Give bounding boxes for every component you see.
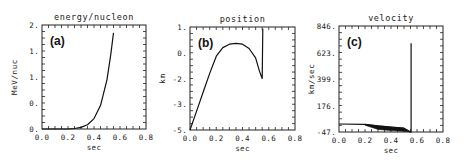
- x-tick-label: 0.2: [61, 133, 75, 142]
- panel-c: 0.00.20.40.60.8846.623.399.176.-47.veloc…: [307, 13, 450, 155]
- chart-title: energy/nucleon: [54, 12, 134, 22]
- chart-title: position: [220, 14, 266, 24]
- y-tick-label: 846.: [317, 22, 336, 31]
- panel-b: 0.00.20.40.60.81.0.-2.-3.-5.positionseck…: [158, 14, 302, 153]
- y-tick-label: 0.: [29, 125, 39, 134]
- y-axis-label: km: [158, 73, 167, 83]
- panel-label: (c): [347, 35, 362, 49]
- x-tick-label: 0.8: [288, 134, 303, 143]
- y-tick-label: 623.: [317, 49, 336, 58]
- x-axis-label: sec: [87, 143, 101, 152]
- x-tick-label: 0.8: [139, 133, 154, 142]
- data-line: [339, 43, 411, 132]
- y-tick-label: 2.: [29, 21, 39, 30]
- x-tick-label: 0.4: [384, 136, 399, 145]
- x-tick-label: 0.4: [87, 133, 102, 142]
- x-tick-label: 0.6: [262, 134, 277, 143]
- y-tick-label: 176.: [317, 102, 336, 111]
- x-tick-label: 0.8: [436, 136, 451, 145]
- y-tick-label: 0.: [29, 99, 39, 108]
- y-tick-label: 1.: [29, 73, 39, 82]
- x-tick-label: 0.6: [113, 133, 128, 142]
- x-tick-label: 0.4: [235, 134, 250, 143]
- chart-figure: 0.00.20.40.60.82.1.1.0.0.energy/nucleons…: [0, 0, 469, 162]
- x-tick-label: 0.0: [332, 136, 347, 145]
- y-tick-label: 0.: [177, 49, 187, 58]
- y-axis-label: km/sec: [307, 64, 316, 95]
- x-tick-label: 0.2: [209, 134, 223, 143]
- x-tick-label: 0.0: [35, 133, 50, 142]
- x-tick-label: 0.2: [358, 136, 372, 145]
- panel-a: 0.00.20.40.60.82.1.1.0.0.energy/nucleons…: [10, 12, 153, 152]
- panel-label: (b): [198, 36, 213, 50]
- y-tick-label: 1.: [177, 23, 187, 32]
- x-axis-label: sec: [384, 146, 398, 155]
- panel-label: (a): [50, 34, 65, 48]
- x-axis-label: sec: [235, 144, 249, 153]
- x-tick-label: 0.6: [410, 136, 425, 145]
- y-tick-label: -5.: [173, 126, 187, 135]
- y-axis-label: MeV/nuc: [10, 59, 19, 95]
- y-tick-label: -3.: [173, 100, 187, 109]
- y-tick-label: -47.: [317, 128, 336, 137]
- x-tick-label: 0.0: [183, 134, 198, 143]
- y-tick-label: -2.: [173, 75, 187, 84]
- y-tick-label: 399.: [317, 75, 336, 84]
- chart-title: velocity: [368, 13, 414, 23]
- y-tick-label: 1.: [29, 47, 39, 56]
